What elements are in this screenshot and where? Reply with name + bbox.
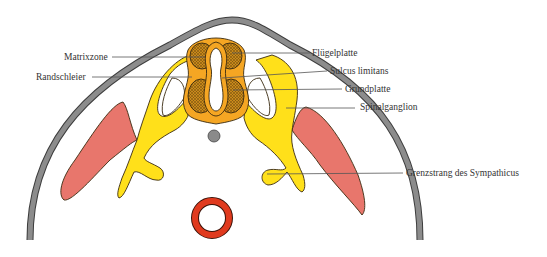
right-myotome — [292, 107, 365, 215]
neural-tube-cross-section-diagram: Matrixzone Randschleier Flügelplatte Sul… — [0, 0, 547, 257]
notochord — [208, 130, 220, 142]
label-matrixzone: Matrixzone — [64, 52, 108, 62]
label-spinalganglion: Spinalganglion — [360, 102, 418, 112]
label-fluegelplatte: Flügelplatte — [312, 48, 357, 58]
label-grundplatte: Grundplatte — [345, 84, 390, 94]
central-canal — [209, 48, 223, 111]
label-randschleier: Randschleier — [36, 72, 86, 82]
label-sulcus-limitans: Sulcus limitans — [330, 66, 389, 76]
label-grenzstrang: Grenzstrang des Sympathicus — [406, 168, 519, 178]
